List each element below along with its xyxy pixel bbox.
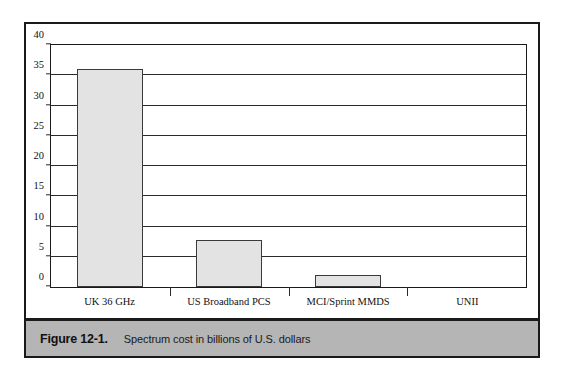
bar [196,240,262,287]
y-tick-label: 35 [34,59,45,70]
y-tick-label: 25 [34,119,45,130]
y-tick-label: 5 [39,240,44,251]
bars-group [51,45,526,287]
y-tick-label: 20 [34,150,45,161]
figure-number-label: Figure 12-1. [40,332,108,346]
x-axis-label: UNII [408,296,527,307]
figure-frame: 0510152025303540 UK 36 GHzUS Broadband P… [24,22,540,358]
y-tick-label: 40 [34,29,45,40]
plot-area: 0510152025303540 [50,44,527,288]
chart-region: 0510152025303540 UK 36 GHzUS Broadband P… [26,24,538,318]
bar [77,69,143,287]
bar-slot [407,45,526,287]
y-tick-label: 30 [34,89,45,100]
x-axis-label: UK 36 GHz [50,296,169,307]
y-tick-label: 15 [34,180,45,191]
x-tick-mark [170,287,171,296]
x-axis-label: US Broadband PCS [169,296,288,307]
x-tick-mark [289,287,290,296]
y-tick-label: 0 [39,271,44,282]
figure-caption-text: Spectrum cost in billions of U.S. dollar… [124,333,311,345]
bar-slot [51,45,170,287]
bar-slot [289,45,408,287]
y-tick-label: 10 [34,210,45,221]
bar [315,275,381,287]
x-axis-label: MCI/Sprint MMDS [289,296,408,307]
bar-slot [170,45,289,287]
figure-caption-band: Figure 12-1. Spectrum cost in billions o… [26,318,538,356]
x-tick-mark [407,287,408,296]
x-axis-labels-group: UK 36 GHzUS Broadband PCSMCI/Sprint MMDS… [50,296,527,316]
